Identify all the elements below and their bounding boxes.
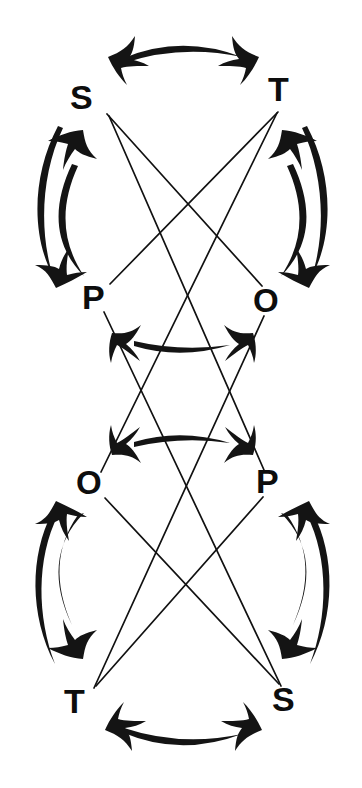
node-label-p-lower: P <box>256 464 279 498</box>
arc-p-s-right-lower[interactable] <box>268 501 330 664</box>
arrow-head-up-left-lower <box>35 501 87 541</box>
arc-t-o-right[interactable] <box>268 126 330 288</box>
node-label-o-upper: O <box>253 284 279 317</box>
line-s-top-to-o-upper <box>107 114 262 286</box>
node-label-p-upper: P <box>82 280 105 314</box>
arc-o-p-middle-lower-body <box>134 435 230 447</box>
arc-right-lower-outer-body <box>307 513 330 664</box>
line-o-lower-to-s-bottom <box>105 498 279 684</box>
arrow-head-left-bottom <box>105 702 146 751</box>
arc-s-t-top[interactable] <box>108 36 259 85</box>
arrow-head-down-right-lower <box>268 619 317 659</box>
node-label-t-bottom: T <box>64 684 85 718</box>
arrow-head-down-left-upper <box>35 248 87 288</box>
arrow-head-left-top <box>108 36 149 85</box>
arc-t-s-bottom[interactable] <box>105 702 262 751</box>
arrow-head-right-bottom <box>221 702 262 751</box>
line-p-lower-to-t-bottom <box>96 497 263 686</box>
arrow-head-right-top <box>218 36 259 85</box>
line-o-upper-to-t-bottom <box>94 316 264 688</box>
node-label-s-top: S <box>70 80 93 114</box>
arc-right-upper-outer-body <box>302 126 328 276</box>
node-label-t-top: T <box>268 72 289 106</box>
arc-left-upper-outer-body <box>37 126 63 276</box>
arc-left-lower-outer-body <box>35 513 58 664</box>
line-t-top-to-p-upper <box>110 112 278 284</box>
arc-s-t-top-body <box>124 46 242 63</box>
arc-p-o-middle-upper-body <box>134 341 230 353</box>
arrow-head-down-left-lower <box>48 619 97 659</box>
figure-canvas: S T P O O P T S <box>0 0 362 788</box>
arrow-head-right-middle-lower <box>224 425 256 463</box>
diagram-svg <box>0 0 362 788</box>
node-label-s-bottom: S <box>272 682 295 716</box>
arc-s-p-left[interactable] <box>35 126 97 288</box>
line-s-top-to-p-lower <box>109 116 264 470</box>
arc-o-p-middle-lower[interactable] <box>109 425 256 463</box>
line-p-upper-to-s-bottom <box>104 312 281 686</box>
arc-t-s-bottom-body <box>124 728 242 745</box>
arc-p-o-middle-upper[interactable] <box>109 325 256 363</box>
arrow-head-right-middle-upper <box>224 325 256 363</box>
node-label-o-lower: O <box>76 466 102 499</box>
arrow-head-down-right-upper <box>278 248 330 288</box>
arrow-head-up-right-lower <box>278 501 330 541</box>
line-t-top-to-o-lower <box>101 113 277 472</box>
arc-o-t-left-lower[interactable] <box>35 501 97 664</box>
thin-line-group <box>94 112 281 688</box>
